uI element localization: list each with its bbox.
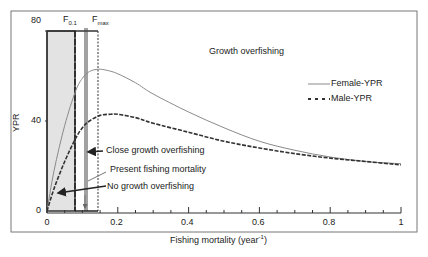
y-tick-80: 80 xyxy=(31,16,41,25)
growth-overfishing-label: Growth overfishing xyxy=(209,47,284,56)
female-ypr-line xyxy=(47,69,401,211)
present-pointer xyxy=(88,172,106,181)
male-ypr-line xyxy=(47,114,401,211)
fmax-label: Fmax xyxy=(92,15,109,26)
legend-male-label: Male-YPR xyxy=(331,94,372,103)
close-growth-label: Close growth overfishing xyxy=(106,146,205,155)
y-axis-label: YPR xyxy=(12,113,21,132)
x-tick-label: 0.8 xyxy=(323,218,336,227)
ypr-chart xyxy=(0,0,428,257)
present-label: Present fishing mortality xyxy=(110,165,206,174)
y-tick-0: 0 xyxy=(36,206,41,215)
x-tick-label: 1 xyxy=(399,218,404,227)
f01-label: F0.1 xyxy=(63,15,77,26)
close-growth-arrow xyxy=(88,151,103,152)
y-tick-40: 40 xyxy=(31,116,41,125)
legend-female-label: Female-YPR xyxy=(331,79,383,88)
x-axis-label: Fishing mortality (year-1) xyxy=(170,234,267,245)
no-growth-label: No growth overfishing xyxy=(107,182,194,191)
x-tick-label: 0.6 xyxy=(252,218,265,227)
x-tick-label: 0.4 xyxy=(181,218,194,227)
x-tick-label: 0.2 xyxy=(110,218,123,227)
x-tick-label: 0 xyxy=(45,218,50,227)
